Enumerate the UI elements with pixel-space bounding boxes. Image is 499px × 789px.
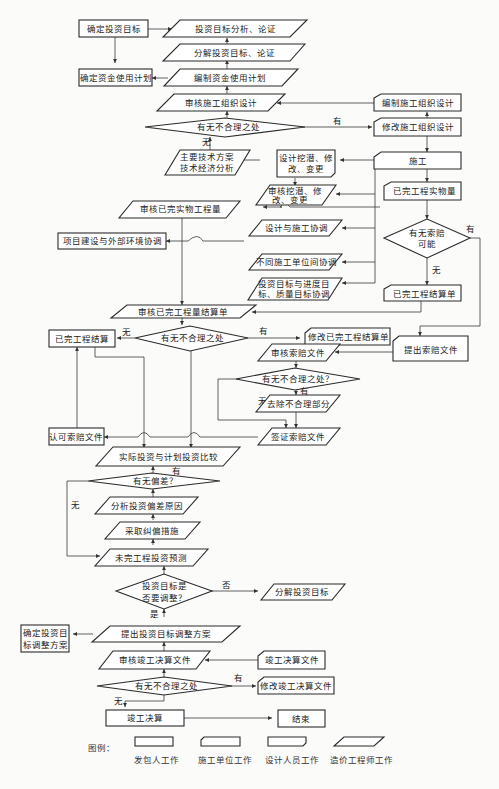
label-yes-shi: 是 [150, 609, 159, 619]
svg-text:施工单位工作: 施工单位工作 [198, 755, 252, 765]
svg-text:修改施工组织设计: 修改施工组织设计 [382, 122, 454, 132]
svg-text:有无偏差？: 有无偏差？ [133, 476, 178, 486]
svg-text:未完工程投资预测: 未完工程投资预测 [115, 553, 187, 563]
node-review-settlement-sheet: 审核已完工程量结算单 [111, 305, 256, 318]
node-actual-vs-planned: 实际投资与计划投资比较 [96, 447, 240, 466]
svg-text:设计与施工协调: 设计与施工协调 [265, 223, 328, 233]
svg-text:标、质量目标协调: 标、质量目标协调 [258, 289, 330, 299]
node-completed-quantity: 已完工程实物量 [384, 182, 461, 200]
label-yes: 有 [259, 326, 268, 336]
svg-text:已完工程结算: 已完工程结算 [55, 334, 109, 344]
svg-text:审核已完实物工程量: 审核已完实物工程量 [140, 204, 221, 214]
node-remaining-investment-forecast: 未完工程投资预测 [95, 549, 208, 566]
node-review-completed-quantity: 审核已完实物工程量 [119, 201, 240, 218]
svg-text:认可索赔文件: 认可索赔文件 [49, 432, 103, 442]
svg-text:提出索赔文件: 提出索赔文件 [404, 345, 458, 355]
svg-text:已完工程实物量: 已完工程实物量 [393, 186, 456, 196]
node-construction: 施工 [374, 152, 461, 169]
decision-unreasonable-1: 有无不合理之处 [145, 118, 305, 137]
node-main-tech-plan: 主要技术方案 技术经济分析 [165, 150, 250, 175]
legend-item-designer: 设计人员工作 [265, 737, 319, 765]
svg-text:已完工程结算单: 已完工程结算单 [393, 289, 456, 299]
node-end: 结束 [278, 710, 325, 727]
label-no: 无 [71, 500, 80, 510]
label-yes: 有 [234, 673, 243, 683]
svg-text:有无不合理之处: 有无不合理之处 [161, 333, 224, 343]
svg-text:竣工决算: 竣工决算 [127, 713, 163, 723]
svg-text:标调整方案: 标调整方案 [23, 640, 68, 650]
node-completed-settlement-sheet: 已完工程结算单 [384, 285, 461, 301]
svg-text:确定资金使用计划: 确定资金使用计划 [80, 73, 152, 83]
svg-text:施工: 施工 [409, 156, 427, 166]
svg-text:项目建设与外部环境协调: 项目建设与外部环境协调 [63, 236, 162, 246]
legend-title: 图例： [88, 743, 115, 753]
investment-control-flowchart: 确定投资目标 投资目标分析、论证 分解投资目标、论证 确定资金使用计划 编制资金… [0, 0, 499, 789]
decision-adjust-target: 投资目标是 否要调整？ [116, 574, 212, 609]
legend-item-owner: 发包人工作 [134, 737, 179, 765]
node-contractor-coordination: 不同施工单位间协调 [249, 254, 342, 270]
node-confirm-investment-target: 确定投资目标 [79, 20, 148, 37]
svg-text:不同施工单位间协调: 不同施工单位间协调 [256, 257, 337, 267]
svg-text:实际投资与计划投资比较: 实际投资与计划投资比较 [119, 452, 218, 462]
decision-unreasonable-4: 有无不合理之处 [97, 677, 232, 695]
svg-text:投资目标分析、论证: 投资目标分析、论证 [195, 24, 276, 34]
node-final-accounts-document: 竣工决算文件 [258, 651, 325, 669]
svg-text:否要调整？: 否要调整？ [142, 593, 187, 603]
svg-text:分解投资目标、论证: 分解投资目标、论证 [194, 48, 275, 58]
svg-text:审核竣工决算文件: 审核竣工决算文件 [119, 655, 191, 665]
svg-text:设计人员工作: 设计人员工作 [265, 755, 319, 765]
svg-text:确定投资目: 确定投资目 [23, 628, 68, 638]
svg-text:审核索赔文件: 审核索赔文件 [271, 348, 325, 358]
decision-unreasonable-3: 有无不合理之处？ [236, 368, 360, 390]
svg-text:发包人工作: 发包人工作 [134, 755, 179, 765]
node-completed-settlement: 已完工程结算 [49, 330, 115, 347]
svg-text:编制资金使用计划: 编制资金使用计划 [194, 73, 266, 83]
svg-text:有无不合理之处？: 有无不合理之处？ [262, 374, 334, 384]
svg-text:有无索赔: 有无索赔 [409, 228, 445, 238]
svg-text:投资目标是: 投资目标是 [142, 581, 187, 591]
node-prepare-fund-plan: 编制资金使用计划 [164, 69, 298, 86]
svg-text:造价工程师工作: 造价工程师工作 [330, 755, 393, 765]
svg-text:修改竣工决算文件: 修改竣工决算文件 [260, 681, 332, 691]
node-investment-target-analysis: 投资目标分析、论证 [163, 20, 307, 37]
node-prepare-construction-design: 编制施工组织设计 [374, 94, 461, 111]
node-review-design-change: 审核挖潜、修 改、变更 [256, 185, 336, 205]
svg-text:签证索赔文件: 签证索赔文件 [271, 432, 325, 442]
svg-text:改、变更: 改、变更 [272, 195, 308, 205]
svg-text:投资目标与进度目: 投资目标与进度目 [258, 279, 330, 289]
svg-text:编制施工组织设计: 编制施工组织设计 [382, 98, 454, 108]
svg-text:设计挖潜、修: 设计挖潜、修 [279, 153, 333, 163]
svg-text:主要技术方案: 主要技术方案 [180, 152, 234, 162]
node-external-environment-coordination: 项目建设与外部环境协调 [58, 233, 166, 249]
svg-text:采取纠偏措施: 采取纠偏措施 [125, 526, 179, 536]
node-final-accounts: 竣工决算 [106, 710, 184, 726]
svg-text:有无不合理之处: 有无不合理之处 [135, 681, 198, 691]
svg-text:审核已完工程量结算单: 审核已完工程量结算单 [138, 307, 228, 317]
node-sign-claim: 签证索赔文件 [258, 428, 340, 445]
node-design-construction-coordination: 设计与施工协调 [249, 220, 342, 236]
decision-deviation: 有无偏差？ [88, 473, 220, 489]
svg-text:技术经济分析: 技术经济分析 [180, 163, 234, 173]
decision-unreasonable-2: 有无不合理之处 [135, 326, 248, 351]
node-review-construction-design: 审核施工组织设计 [157, 94, 285, 111]
svg-text:改、变更: 改、变更 [288, 164, 324, 174]
label-no-fou: 否 [222, 580, 231, 590]
svg-text:确定投资目标: 确定投资目标 [87, 24, 141, 34]
node-decompose-investment-target: 分解投资目标、论证 [163, 44, 305, 61]
node-review-final-accounts: 审核竣工决算文件 [99, 651, 210, 669]
label-yes: 有 [333, 116, 342, 126]
node-review-claim: 审核索赔文件 [258, 344, 340, 361]
label-no: 无 [202, 137, 211, 147]
node-decompose-target: 分解投资目标 [261, 584, 345, 600]
node-confirm-fund-plan: 确定资金使用计划 [79, 69, 152, 86]
svg-text:审核施工组织设计: 审核施工组织设计 [185, 98, 257, 108]
svg-text:结束: 结束 [292, 714, 310, 724]
node-confirm-adjustment-plan: 确定投资目 标调整方案 [21, 625, 69, 652]
label-no: 无 [432, 265, 441, 275]
label-no: 无 [114, 696, 123, 706]
svg-text:提出投资目标调整方案: 提出投资目标调整方案 [121, 629, 211, 639]
node-target-coordination: 投资目标与进度目 标、质量目标协调 [248, 278, 342, 300]
node-propose-adjustment-plan: 提出投资目标调整方案 [92, 626, 240, 642]
svg-text:修改已完工程结算单: 修改已完工程结算单 [308, 332, 389, 342]
node-corrective-measures: 采取纠偏措施 [105, 522, 200, 539]
